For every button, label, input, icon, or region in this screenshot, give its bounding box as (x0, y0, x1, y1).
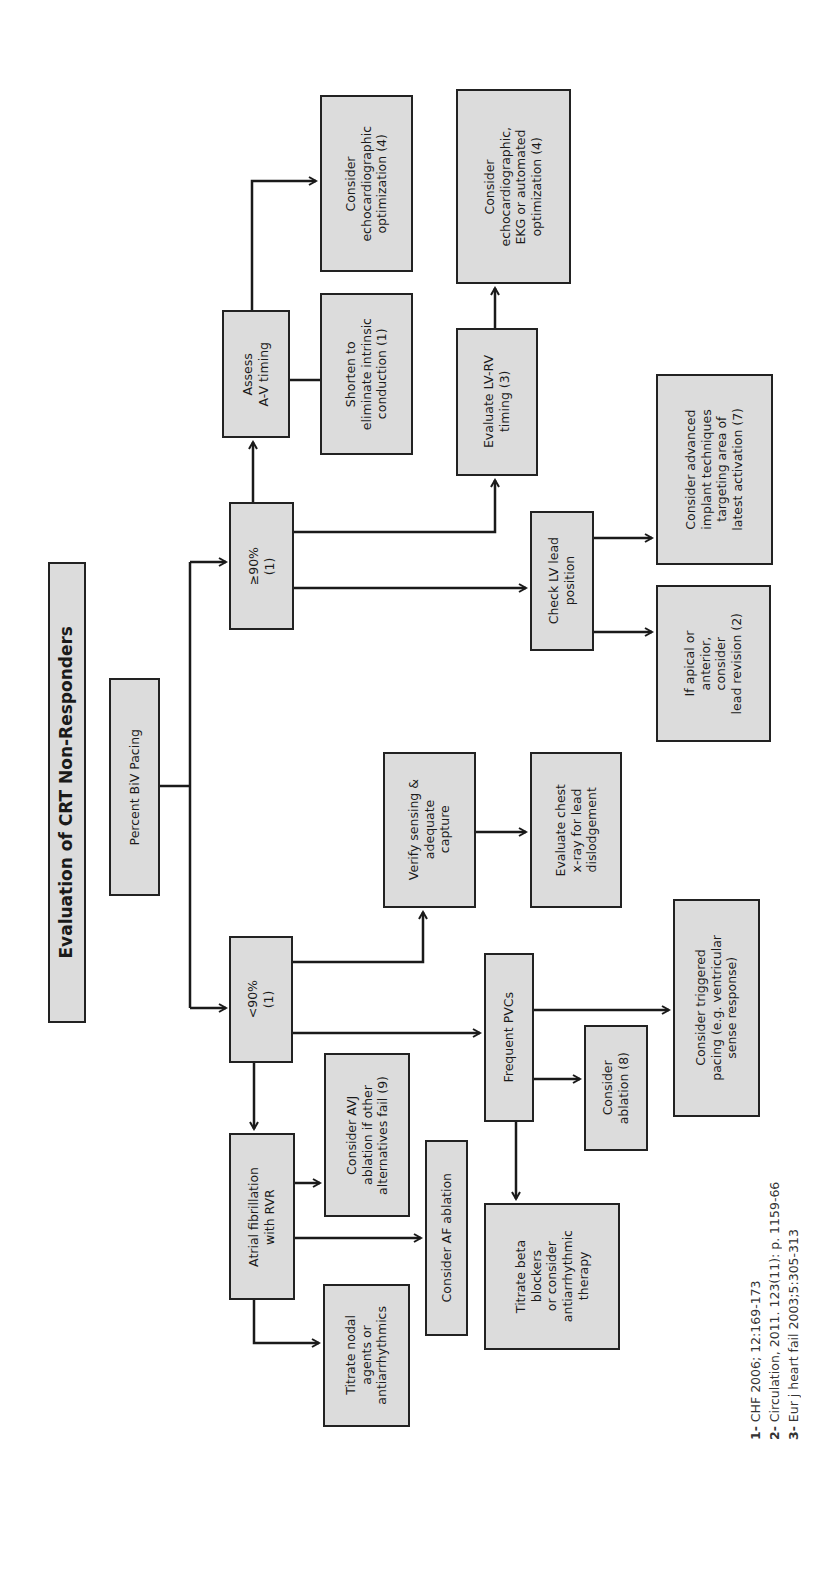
title-box: Evaluation of CRT Non-Responders (48, 562, 86, 1023)
node-label: Consider AF ablation (439, 1173, 455, 1302)
node-assess-av-timing: Assess A-V timing (222, 310, 290, 438)
node-af-ablation: Consider AF ablation (425, 1140, 468, 1336)
node-label: Titrate nodal agents or antiarrhythmics (343, 1306, 390, 1405)
reference-text: Eur j heart fail 2003;5:305-313 (786, 1229, 801, 1426)
node-label: Consider triggered pacing (e.g. ventricu… (693, 935, 740, 1081)
reference-2: 2- Circulation, 2011. 123(11): p. 1159-6… (767, 1180, 782, 1440)
references: 1- CHF 2006; 12:169-173 2- Circulation, … (748, 1180, 801, 1440)
node-label: Frequent PVCs (501, 992, 517, 1083)
reference-1: 1- CHF 2006; 12:169-173 (748, 1180, 763, 1440)
node-label: Atrial fibrillation with RVR (246, 1167, 277, 1267)
node-lv-rv-timing: Evaluate LV-RV timing (3) (456, 328, 538, 476)
node-label: Consider advanced implant techniques tar… (683, 408, 746, 531)
reference-3: 3- Eur j heart fail 2003;5:305-313 (786, 1180, 801, 1440)
node-chest-xray: Evaluate chest x-ray for lead dislodgeme… (530, 752, 622, 908)
node-lead-revision: If apical or anterior, consider lead rev… (656, 585, 771, 742)
node-label: Titrate beta blockers or consider antiar… (513, 1230, 591, 1322)
node-atrial-fibrillation: Atrial fibrillation with RVR (229, 1133, 295, 1300)
node-label: Consider echocardiographic optimization … (343, 126, 390, 242)
flowchart-canvas: Evaluation of CRT Non-Responders Percent… (0, 0, 819, 1591)
reference-number: 3- (786, 1426, 801, 1440)
node-label: If apical or anterior, consider lead rev… (682, 613, 745, 714)
diagram-title: Evaluation of CRT Non-Responders (56, 626, 77, 959)
node-percent-biv-pacing: Percent BiV Pacing (109, 678, 160, 896)
node-label: Assess A-V timing (240, 342, 271, 406)
node-check-lv-lead: Check LV lead position (530, 511, 594, 651)
reference-number: 2- (767, 1426, 782, 1440)
node-advanced-implant: Consider advanced implant techniques tar… (656, 374, 773, 565)
node-label: <90% (1) (245, 980, 276, 1018)
node-lt-90: <90% (1) (229, 936, 293, 1063)
node-pvc-ablation: Consider ablation (8) (584, 1025, 648, 1151)
node-label: Evaluate LV-RV timing (3) (481, 355, 512, 448)
node-echo-ekg-optimization: Consider echocardiographic, EKG or autom… (456, 89, 571, 284)
node-label: Shorten to eliminate intrinsic conductio… (343, 318, 390, 430)
node-titrate-nodal: Titrate nodal agents or antiarrhythmics (323, 1284, 410, 1427)
node-triggered-pacing: Consider triggered pacing (e.g. ventricu… (673, 899, 760, 1117)
node-label: ≥90% (1) (246, 547, 277, 585)
node-frequent-pvcs: Frequent PVCs (484, 953, 534, 1122)
reference-text: CHF 2006; 12:169-173 (748, 1281, 763, 1427)
node-label: Evaluate chest x-ray for lead dislodgeme… (553, 784, 600, 876)
node-label: Consider ablation (8) (600, 1052, 631, 1124)
reference-text: Circulation, 2011. 123(11): p. 1159-66 (767, 1182, 782, 1426)
node-label: Consider echocardiographic, EKG or autom… (482, 127, 545, 247)
node-avj-ablation: Consider AVJ ablation if other alternati… (324, 1053, 410, 1217)
node-label: Check LV lead position (546, 537, 577, 624)
node-echo-optimization: Consider echocardiographic optimization … (320, 95, 413, 272)
node-label: Percent BiV Pacing (127, 729, 143, 845)
node-label: Consider AVJ ablation if other alternati… (344, 1076, 391, 1195)
node-titrate-beta-blockers: Titrate beta blockers or consider antiar… (484, 1203, 620, 1350)
node-ge-90: ≥90% (1) (229, 502, 294, 630)
node-verify-sensing: Verify sensing & adequate capture (383, 752, 476, 908)
reference-number: 1- (748, 1426, 763, 1440)
node-label: Verify sensing & adequate capture (406, 779, 453, 880)
node-shorten-av: Shorten to eliminate intrinsic conductio… (320, 293, 413, 455)
